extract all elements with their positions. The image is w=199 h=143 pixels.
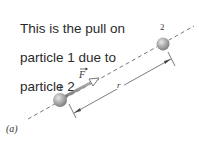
line-of-centers: [28, 26, 194, 119]
force-label: F: [78, 68, 88, 81]
force-diagram: r F 1 2 (a): [0, 0, 199, 143]
particle-1-label: 1: [58, 82, 63, 92]
particle-2: [157, 38, 170, 51]
particle-1: [53, 93, 67, 107]
svg-text:F: F: [78, 69, 86, 80]
particle-2-label: 2: [160, 22, 165, 32]
distance-label: r: [117, 80, 121, 90]
panel-label: (a): [6, 123, 18, 135]
force-vector-arrow: [64, 78, 99, 97]
